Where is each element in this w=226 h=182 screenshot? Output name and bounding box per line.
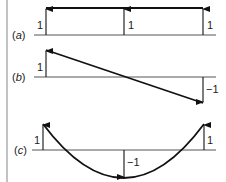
part-c-value-left: 1 (34, 134, 40, 146)
distribution-diagram: (a) 1 1 1 (b) 1 −1 (c) 1 −1 1 (0, 0, 226, 182)
part-c: (c) 1 −1 1 (14, 124, 216, 178)
part-a-value-left: 1 (37, 19, 43, 31)
part-a-value-right: 1 (207, 19, 213, 31)
part-a-value-middle: 1 (128, 19, 134, 31)
part-c-label: (c) (14, 144, 27, 156)
part-a: (a) 1 1 1 (12, 8, 216, 41)
part-b: (b) 1 −1 (12, 50, 219, 103)
part-b-value-right: −1 (206, 83, 219, 95)
part-b-value-left: 1 (37, 61, 43, 73)
part-c-value-middle: −1 (127, 156, 140, 168)
part-c-value-right: 1 (207, 134, 213, 146)
part-a-label: (a) (12, 29, 25, 41)
part-b-label: (b) (12, 71, 25, 83)
